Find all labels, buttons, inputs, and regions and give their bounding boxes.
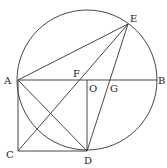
label-point-a: A bbox=[3, 75, 12, 86]
label-point-f: F bbox=[73, 68, 80, 79]
geometry-diagram: ABOFGECD bbox=[0, 0, 167, 168]
segments bbox=[18, 24, 157, 151]
label-point-c: C bbox=[6, 149, 14, 160]
label-point-b: B bbox=[158, 75, 165, 86]
label-point-e: E bbox=[130, 13, 137, 24]
segment-ad bbox=[18, 80, 87, 151]
label-point-g: G bbox=[110, 83, 118, 94]
label-point-o: O bbox=[89, 83, 97, 94]
label-point-d: D bbox=[84, 155, 92, 166]
diagram-canvas: ABOFGECD bbox=[0, 0, 167, 168]
